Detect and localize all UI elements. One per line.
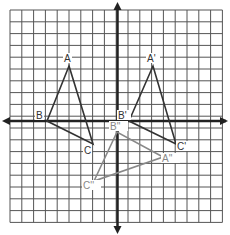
coordinate-grid-diagram: ABCA'B'C'A''B''C'' [0,0,230,235]
vertex-label: C' [177,141,186,152]
vertex-label: C [84,145,91,156]
vertex-label: C'' [83,180,94,191]
arrow-left-icon [2,117,10,125]
vertex-label: A' [147,53,156,64]
arrow-up-icon [114,2,122,10]
arrow-right-icon [220,117,228,125]
vertex-label: B [36,110,43,121]
vertex-label: A'' [162,153,173,164]
vertex-label: B'' [110,121,121,132]
triangle-abc [47,66,93,144]
vertex-label: B' [118,110,127,121]
arrow-down-icon [114,226,122,234]
triangle-apbpcp [129,66,176,144]
vertex-label: A [64,53,71,64]
